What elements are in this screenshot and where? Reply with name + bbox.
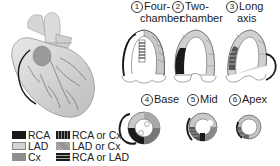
label-line1: Long xyxy=(239,0,263,12)
legend: RCA LAD Cx RCA or Cx LAD or Cx RCA or LA… xyxy=(12,130,172,166)
heart-illustration xyxy=(0,0,125,125)
view-label-two-chamber: 2Two- chamber xyxy=(172,1,223,24)
four-chamber-diagram xyxy=(118,26,170,84)
legend-item-lad: LAD xyxy=(12,141,48,151)
legend-item-rca-or-lad: RCA or LAD xyxy=(56,152,129,162)
number-badge: 4 xyxy=(141,94,153,106)
swatch-horizontal-stripes xyxy=(56,153,70,161)
swatch-dotted xyxy=(56,142,70,150)
legend-item-rca: RCA xyxy=(12,130,50,140)
legend-item-lad-or-cx: LAD or Cx xyxy=(56,141,120,151)
swatch-vertical-stripes xyxy=(56,131,70,139)
label-line1: Base xyxy=(154,93,179,105)
view-label-mid: 5Mid xyxy=(187,94,218,106)
label-line1: Two- xyxy=(185,0,209,12)
two-chamber-diagram xyxy=(170,26,220,84)
number-badge: 5 xyxy=(187,94,199,106)
label-line1: Apex xyxy=(242,93,267,105)
swatch-light-gray xyxy=(12,142,26,150)
long-axis-diagram xyxy=(222,26,280,84)
view-label-long-axis: 3Long axis xyxy=(226,1,263,24)
view-label-apex: 6Apex xyxy=(229,94,267,106)
label-line2: chamber xyxy=(172,12,223,24)
apex-short-axis-diagram xyxy=(232,112,264,142)
label-line2: axis xyxy=(226,12,257,24)
view-label-base: 4Base xyxy=(141,94,179,106)
label-line1: Mid xyxy=(200,93,218,105)
legend-item-cx: Cx xyxy=(12,152,41,162)
mid-short-axis-diagram xyxy=(182,110,222,146)
legend-item-rca-or-cx: RCA or Cx xyxy=(56,130,122,140)
swatch-solid-black xyxy=(12,131,26,139)
number-badge: 6 xyxy=(229,94,241,106)
legend-label: RCA or LAD xyxy=(72,151,129,163)
legend-label: Cx xyxy=(28,151,41,163)
label-line1: Four- xyxy=(144,0,170,12)
swatch-mid-gray xyxy=(12,153,26,161)
